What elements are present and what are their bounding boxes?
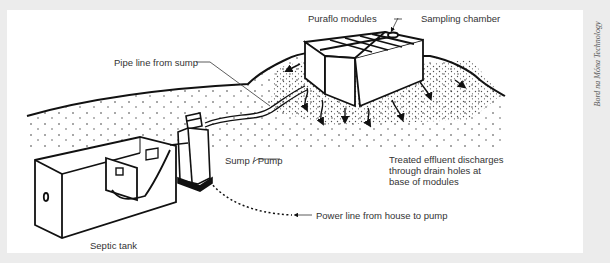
- image-credit: Bord na Móna Technology: [593, 22, 602, 107]
- label-power-line: Power line from house to pump: [316, 210, 447, 221]
- label-treated-effluent-line2: through drain holes at: [389, 165, 509, 176]
- septic-system-illustration: [0, 0, 610, 263]
- label-treated-effluent-line3: base of modules: [389, 176, 509, 187]
- label-sampling-chamber: Sampling chamber: [421, 13, 500, 24]
- label-puraflo-modules: Puraflo modules: [308, 13, 377, 24]
- label-treated-effluent: Treated effluent discharges through drai…: [389, 154, 509, 187]
- label-treated-effluent-line1: Treated effluent discharges: [389, 154, 509, 165]
- label-septic-tank: Septic tank: [90, 240, 137, 251]
- ground-mound: [27, 53, 505, 150]
- label-pipe-line: Pipe line from sump: [114, 57, 198, 68]
- power-line: [210, 182, 292, 215]
- septic-tank: [35, 137, 188, 238]
- label-sump-pump: Sump / Pump: [225, 155, 283, 166]
